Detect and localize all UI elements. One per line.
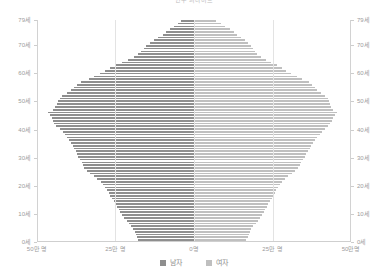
bar-male (52, 117, 194, 119)
bar-female (194, 184, 280, 186)
bar-female (194, 214, 262, 216)
bar-male (144, 48, 194, 50)
bar-male (122, 62, 194, 64)
x-tick-label: 0명 (164, 245, 224, 254)
bar-female (194, 223, 256, 225)
bar-female (194, 28, 230, 30)
y-tick-label-left: 40세 (1, 126, 31, 134)
y-tick-mark-right (351, 101, 354, 102)
gridline-25man-right (273, 20, 274, 242)
bar-female (194, 134, 320, 136)
bar-female (194, 150, 308, 152)
bar-female (194, 67, 282, 69)
bar-female (194, 89, 317, 91)
bar-male (122, 214, 194, 216)
legend-swatch-female-icon (206, 260, 212, 266)
bar-male (50, 114, 194, 116)
y-tick-mark-left (34, 186, 37, 187)
bar-female (194, 106, 331, 108)
y-tick-label-left: 79세 (1, 16, 31, 24)
bar-female (194, 211, 264, 213)
gridline-25man-left (115, 20, 116, 242)
bar-female (194, 153, 306, 155)
bar-male (158, 37, 194, 39)
bar-male (55, 106, 194, 108)
bar-male (58, 100, 194, 102)
bar-female (194, 64, 277, 66)
bar-female (194, 109, 333, 111)
bar-female (194, 175, 288, 177)
bar-female (194, 145, 311, 147)
y-tick-mark-right (351, 158, 354, 159)
bar-female (194, 167, 298, 169)
bar-male (129, 223, 194, 225)
bar-female (194, 173, 292, 175)
bar-female (194, 114, 335, 116)
bar-female (194, 234, 249, 236)
bar-female (194, 117, 333, 119)
bar-male (82, 162, 194, 164)
y-tick-mark-left (34, 214, 37, 215)
bar-female (194, 123, 330, 125)
bar-female (194, 76, 297, 78)
y-tick-mark-right (351, 242, 354, 243)
y-tick-label-right: 30세 (357, 154, 387, 162)
bar-female (194, 125, 328, 127)
chart-title: 인구 피라미드 (0, 0, 388, 4)
bar-male (174, 26, 194, 28)
bar-female (194, 131, 322, 133)
bar-female (194, 39, 245, 41)
bar-male (69, 139, 194, 141)
bar-male (128, 59, 194, 61)
bar-female (194, 189, 276, 191)
bar-male (114, 200, 194, 202)
bar-male (57, 103, 194, 105)
y-tick-label-right: 60세 (357, 69, 387, 77)
bar-female (194, 20, 216, 22)
y-tick-label-left: 20세 (1, 182, 31, 190)
bar-female (194, 95, 325, 97)
right-axis-line (350, 20, 351, 242)
legend-item-male[interactable]: 남자 (160, 259, 182, 267)
bar-male (137, 236, 194, 238)
y-tick-mark-right (351, 214, 354, 215)
bar-male (138, 53, 194, 55)
bar-male (163, 34, 194, 36)
bar-male (74, 148, 194, 150)
y-tick-mark-left (34, 242, 37, 243)
bar-female (194, 170, 295, 172)
left-axis-line (37, 20, 38, 242)
bar-male (131, 225, 194, 227)
bar-male (76, 150, 194, 152)
bar-female (194, 92, 321, 94)
y-tick-mark-right (351, 20, 354, 21)
legend-item-female[interactable]: 여자 (206, 259, 228, 267)
bar-female (194, 37, 241, 39)
bar-male (71, 89, 194, 91)
y-tick-label-left: 30세 (1, 154, 31, 162)
y-tick-label-left: 60세 (1, 69, 31, 77)
bar-male (135, 231, 194, 233)
bar-male (166, 31, 194, 33)
bar-male (119, 209, 194, 211)
bar-female (194, 203, 268, 205)
bar-male (103, 184, 194, 186)
bar-male (84, 167, 194, 169)
bar-female (194, 139, 315, 141)
bar-female (194, 128, 325, 130)
bar-male (136, 234, 194, 236)
bar-female (194, 209, 265, 211)
y-tick-label-right: 10세 (357, 210, 387, 218)
bar-male (60, 128, 194, 130)
bar-female (194, 162, 301, 164)
bar-male (105, 187, 194, 189)
x-tick-label: 50만명 (321, 245, 381, 254)
bar-male (116, 203, 194, 205)
bar-male (81, 81, 194, 83)
bar-female (194, 198, 272, 200)
bar-female (194, 23, 221, 25)
bar-female (194, 59, 266, 61)
bar-male (77, 153, 194, 155)
bar-male (80, 159, 194, 161)
bar-male (109, 192, 194, 194)
